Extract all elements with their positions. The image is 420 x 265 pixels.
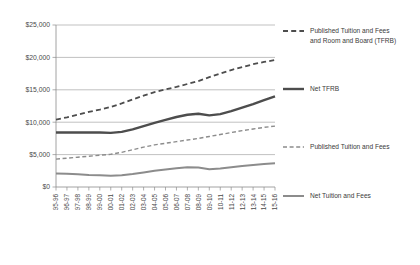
chart-container: $0$5,000$10,000$15,000$20,000$25,00095-9… bbox=[0, 0, 420, 265]
x-axis-tick-label: 05-06 bbox=[162, 194, 169, 211]
x-axis-tick-label: 98-99 bbox=[85, 194, 92, 211]
x-axis-tick-label: 07-08 bbox=[184, 194, 191, 211]
series-line-published-tuition-and-fees bbox=[56, 126, 275, 159]
x-axis-tick-label: 04-05 bbox=[151, 194, 158, 211]
x-axis-tick-label: 15-16 bbox=[271, 194, 278, 211]
x-axis-tick-label: 09-10 bbox=[206, 194, 213, 211]
legend-label-4: Net Tuition and Fees bbox=[310, 192, 372, 199]
x-axis-tick-label: 11-12 bbox=[228, 194, 235, 210]
series-line-net-tfrb bbox=[56, 96, 275, 133]
x-axis-tick-label: 00-01 bbox=[107, 194, 114, 211]
x-axis-labels-group: 95-9696-9797-9898-9999-0000-0101-0202-03… bbox=[52, 187, 278, 210]
x-axis-tick-label: 10-11 bbox=[217, 194, 224, 210]
x-axis-tick-label: 13-14 bbox=[250, 194, 257, 211]
series-group bbox=[56, 60, 275, 176]
x-axis-tick-label: 02-03 bbox=[129, 194, 136, 211]
legend-label-2: Net TFRB bbox=[310, 85, 340, 92]
x-axis-tick-label: 08-09 bbox=[195, 194, 202, 211]
x-axis-tick-label: 12-13 bbox=[239, 194, 246, 211]
x-axis-tick-label: 97-98 bbox=[74, 194, 81, 211]
x-axis-tick-label: 01-02 bbox=[118, 194, 125, 211]
gridlines-group: $0$5,000$10,000$15,000$20,000$25,000 bbox=[25, 21, 275, 190]
x-axis-tick-label: 14-15 bbox=[260, 194, 267, 211]
legend: Published Tuition and Feesand Room and B… bbox=[283, 27, 396, 199]
y-axis-tick-label: $10,000 bbox=[25, 119, 50, 126]
y-axis-tick-label: $0 bbox=[42, 183, 50, 190]
legend-label-1: Published Tuition and Fees bbox=[310, 27, 390, 34]
x-axis-tick-label: 95-96 bbox=[52, 194, 59, 211]
x-axis-tick-label: 99-00 bbox=[96, 194, 103, 211]
y-axis-tick-label: $25,000 bbox=[25, 21, 50, 28]
x-axis-tick-label: 03-04 bbox=[140, 194, 147, 211]
y-axis-tick-label: $20,000 bbox=[25, 54, 50, 61]
line-chart: $0$5,000$10,000$15,000$20,000$25,00095-9… bbox=[0, 0, 420, 265]
legend-label-3: Published Tuition and Fees bbox=[310, 143, 390, 150]
y-axis-tick-label: $5,000 bbox=[29, 151, 50, 158]
legend-label-1: and Room and Board (TFRB) bbox=[310, 37, 396, 45]
x-axis-tick-label: 96-97 bbox=[63, 194, 70, 211]
y-axis-tick-label: $15,000 bbox=[25, 86, 50, 93]
x-axis-tick-label: 06-07 bbox=[173, 194, 180, 211]
series-line-net-tuition-and-fees bbox=[56, 163, 275, 175]
